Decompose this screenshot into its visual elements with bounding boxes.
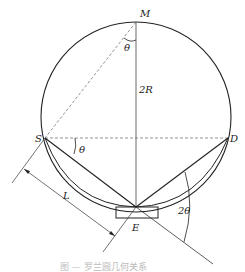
arrow-head-left xyxy=(24,169,30,174)
label-theta-left: θ xyxy=(79,144,85,155)
rowland-circle-diagram: M θ 2R S D θ L 2θ E 图 — 罗兰圆几何关系 xyxy=(0,0,245,272)
label-2r: 2R xyxy=(138,84,153,95)
dim-line-s xyxy=(12,138,45,183)
label-theta-top: θ xyxy=(124,42,130,53)
dashed-line-ms xyxy=(45,22,136,138)
extension-line xyxy=(136,207,213,264)
crystal-arc xyxy=(45,138,228,207)
figure-caption: 图 — 罗兰圆几何关系 xyxy=(60,261,147,272)
theta-arc-top xyxy=(124,38,136,41)
label-s: S xyxy=(35,133,42,144)
label-2theta: 2θ xyxy=(177,205,190,216)
label-l: L xyxy=(62,190,70,201)
arrow-head-right xyxy=(109,231,115,236)
label-d: D xyxy=(229,133,238,144)
theta-arc-left xyxy=(74,138,76,154)
label-m: M xyxy=(139,8,151,19)
label-e: E xyxy=(131,222,140,233)
ray-ed xyxy=(136,138,228,207)
